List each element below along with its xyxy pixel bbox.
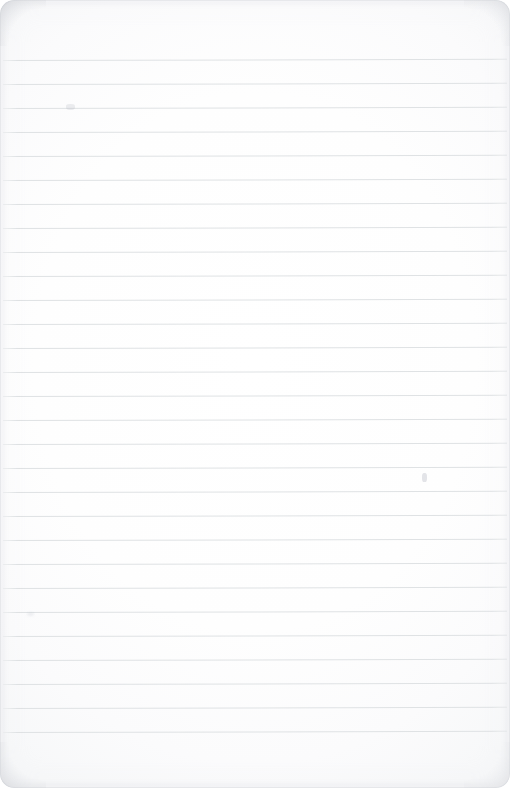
- ruled-line: [3, 635, 507, 637]
- ruled-line: [3, 491, 507, 493]
- paper-smudge-mark: [66, 104, 75, 110]
- ruled-line: [3, 587, 507, 589]
- paper-smudge-mark: [422, 473, 427, 482]
- ruled-line: [3, 563, 507, 565]
- ruled-line: [3, 347, 507, 349]
- ruled-line: [3, 467, 507, 469]
- ruled-line: [3, 659, 507, 661]
- ruled-line: [3, 227, 507, 229]
- paper-surface-texture: [0, 0, 510, 788]
- ruled-line: [3, 299, 507, 301]
- ruled-line: [3, 275, 507, 277]
- ruled-line: [3, 707, 507, 709]
- ruled-line: [3, 131, 507, 133]
- paper-smudge-mark: [27, 612, 34, 616]
- paper-sheet: [0, 0, 510, 788]
- ruled-line: [3, 107, 507, 109]
- page-edge-vignette: [0, 0, 510, 788]
- ruled-line: [3, 203, 507, 205]
- ruled-line: [3, 155, 507, 157]
- page-corner-top-right: [464, 0, 510, 46]
- page-corner-bottom-left: [0, 742, 46, 788]
- ruled-line: [3, 59, 507, 61]
- ruled-line: [3, 515, 507, 517]
- ruled-line: [3, 611, 507, 613]
- page-corner-top-left: [0, 0, 46, 46]
- ruled-line: [3, 443, 507, 445]
- ruled-lines-layer: [0, 0, 510, 788]
- ruled-line: [3, 83, 507, 85]
- page-corner-bottom-right: [464, 742, 510, 788]
- ruled-line: [3, 395, 507, 397]
- ruled-line: [3, 539, 507, 541]
- ruled-line: [3, 731, 507, 733]
- ruled-line: [3, 323, 507, 325]
- ruled-line: [3, 683, 507, 685]
- ruled-line: [3, 179, 507, 181]
- notepad-page-root: [0, 0, 510, 788]
- ruled-line: [3, 251, 507, 253]
- ruled-line: [3, 419, 507, 421]
- ruled-line: [3, 371, 507, 373]
